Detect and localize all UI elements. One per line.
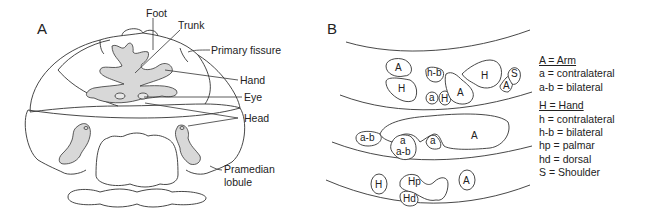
region-label: H bbox=[481, 70, 488, 81]
legend-item: h-b = bilateral bbox=[539, 126, 615, 139]
panel-a-letter: A bbox=[37, 20, 47, 37]
legend-item: hp = palmar bbox=[539, 139, 615, 152]
region-label: H bbox=[398, 83, 405, 94]
region-label: S bbox=[511, 68, 518, 79]
region-label: a bbox=[430, 135, 436, 146]
label-head: Head bbox=[244, 112, 269, 124]
region-label: a-b bbox=[396, 146, 411, 157]
legend-item: hd = dorsal bbox=[539, 153, 615, 166]
region-label: a-b bbox=[360, 132, 375, 143]
label-eye: Eye bbox=[244, 91, 262, 103]
region-label: H bbox=[441, 93, 448, 104]
label-trunk: Trunk bbox=[178, 19, 205, 31]
region-label: Hp bbox=[408, 176, 421, 187]
label-lobule: lobule bbox=[224, 176, 252, 188]
label-hand: Hand bbox=[240, 74, 265, 86]
region-label: Hd bbox=[403, 193, 416, 204]
legend-item: a-b = bilateral bbox=[539, 81, 615, 94]
region-label: a bbox=[429, 92, 435, 103]
region-label: A bbox=[503, 80, 510, 91]
region-label: H bbox=[375, 179, 382, 190]
region-label: h-b bbox=[427, 67, 442, 78]
legend-item: a = contralateral bbox=[539, 67, 615, 80]
legend-hand-header: H = Hand bbox=[539, 99, 615, 112]
legend-arm-header: A = Arm bbox=[539, 54, 615, 67]
panel-b-letter: B bbox=[327, 20, 337, 37]
label-foot: Foot bbox=[146, 7, 167, 19]
label-pramedian: Pramedian bbox=[224, 163, 275, 175]
label-primary-fissure: Primary fissure bbox=[211, 44, 281, 56]
region-label: A bbox=[463, 175, 470, 186]
legend-item: S = Shoulder bbox=[539, 166, 615, 179]
legend: A = Arm a = contralateral a-b = bilatera… bbox=[539, 54, 615, 180]
region-label: A bbox=[395, 62, 402, 73]
region-label: a bbox=[400, 135, 406, 146]
region-label: A bbox=[457, 87, 464, 98]
region-label: A bbox=[471, 130, 478, 141]
legend-item: h = contralateral bbox=[539, 113, 615, 126]
